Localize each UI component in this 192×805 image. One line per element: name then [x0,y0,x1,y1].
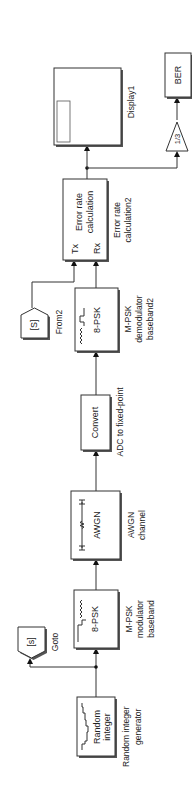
block-label: demodulator [134,295,144,342]
block-label: Display1 [126,85,136,118]
from-tag: [S] [29,319,39,330]
awgn-channel-block[interactable]: AWGN [71,491,122,561]
block-label: AWGN [126,512,136,538]
block-label: modulator [135,600,145,638]
block-text: 8-PSK [90,606,100,632]
random-integer-generator-block[interactable]: Random integer [77,697,117,758]
ber-display-block[interactable]: BER [165,53,192,99]
block-text: 8-PSK [92,307,102,333]
rx-port-label: Rx [92,243,102,254]
block-text: AWGN [92,511,102,539]
block-text: integer [102,713,112,741]
error-rate-calculation-block[interactable]: Tx Rx Error rate calculation [63,179,109,262]
block-text: Convert [90,406,100,438]
gain-block[interactable]: 1/3 [166,122,188,151]
block-text: Error rate [74,193,84,231]
gain-value: 1/3 [173,134,182,144]
block-label: Random integer [121,706,131,767]
block-label: M-PSK [123,305,133,332]
block-label: baseband [146,600,156,638]
simulink-canvas: Random integer Random integer generator … [0,0,192,805]
display-block[interactable] [54,68,123,147]
block-label: From2 [54,309,64,334]
display-readout-icon [57,101,70,142]
adc-to-fixed-point-block[interactable]: Convert [81,395,112,452]
block-label: calculation2 [123,197,133,242]
mpsk-demodulator-block[interactable]: 8-PSK [75,288,120,353]
goto-block[interactable]: [s] [18,627,47,660]
block-label: ADC to fixed-point [115,387,125,457]
block-label: channel [137,510,147,540]
tx-port-label: Tx [70,244,80,254]
goto-tag: [s] [26,637,36,647]
block-label: baseband2 [145,298,155,340]
block-text: Random [92,710,102,744]
block-label: M-PSK [124,605,134,632]
branch-point [94,665,98,669]
block-text: calculation [85,191,95,234]
block-label: Goto [50,633,60,652]
mpsk-modulator-block[interactable]: 8-PSK [74,590,120,650]
from-block[interactable]: [S] [21,308,50,340]
block-label: generator [133,708,143,745]
block-label: Error rate [112,202,122,238]
block-text: BER [173,65,183,84]
